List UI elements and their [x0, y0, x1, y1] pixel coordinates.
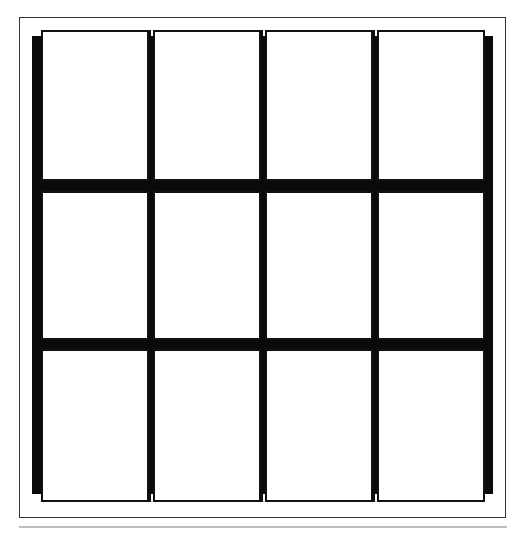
pane-r3-c3	[265, 349, 373, 502]
bottom-rule	[19, 526, 507, 528]
notch-top-1	[149, 30, 155, 36]
transom-2	[41, 340, 487, 349]
pane-r2-c2	[153, 191, 261, 340]
notch-bottom-2	[261, 494, 267, 502]
transom-1	[41, 181, 487, 191]
pane-r2-c4	[377, 191, 485, 340]
notch-bottom-1	[149, 494, 155, 502]
pane-r1-c3	[265, 30, 373, 181]
pane-r1-c2	[153, 30, 261, 181]
pane-r2-c1	[41, 191, 149, 340]
pane-r1-c4	[377, 30, 485, 181]
pane-r1-c1	[41, 30, 149, 181]
notch-top-3	[373, 30, 379, 36]
notch-bottom-3	[373, 494, 379, 502]
pane-r3-c1	[41, 349, 149, 502]
pane-r2-c3	[265, 191, 373, 340]
notch-top-2	[261, 30, 267, 36]
pane-r3-c2	[153, 349, 261, 502]
pane-r3-c4	[377, 349, 485, 502]
